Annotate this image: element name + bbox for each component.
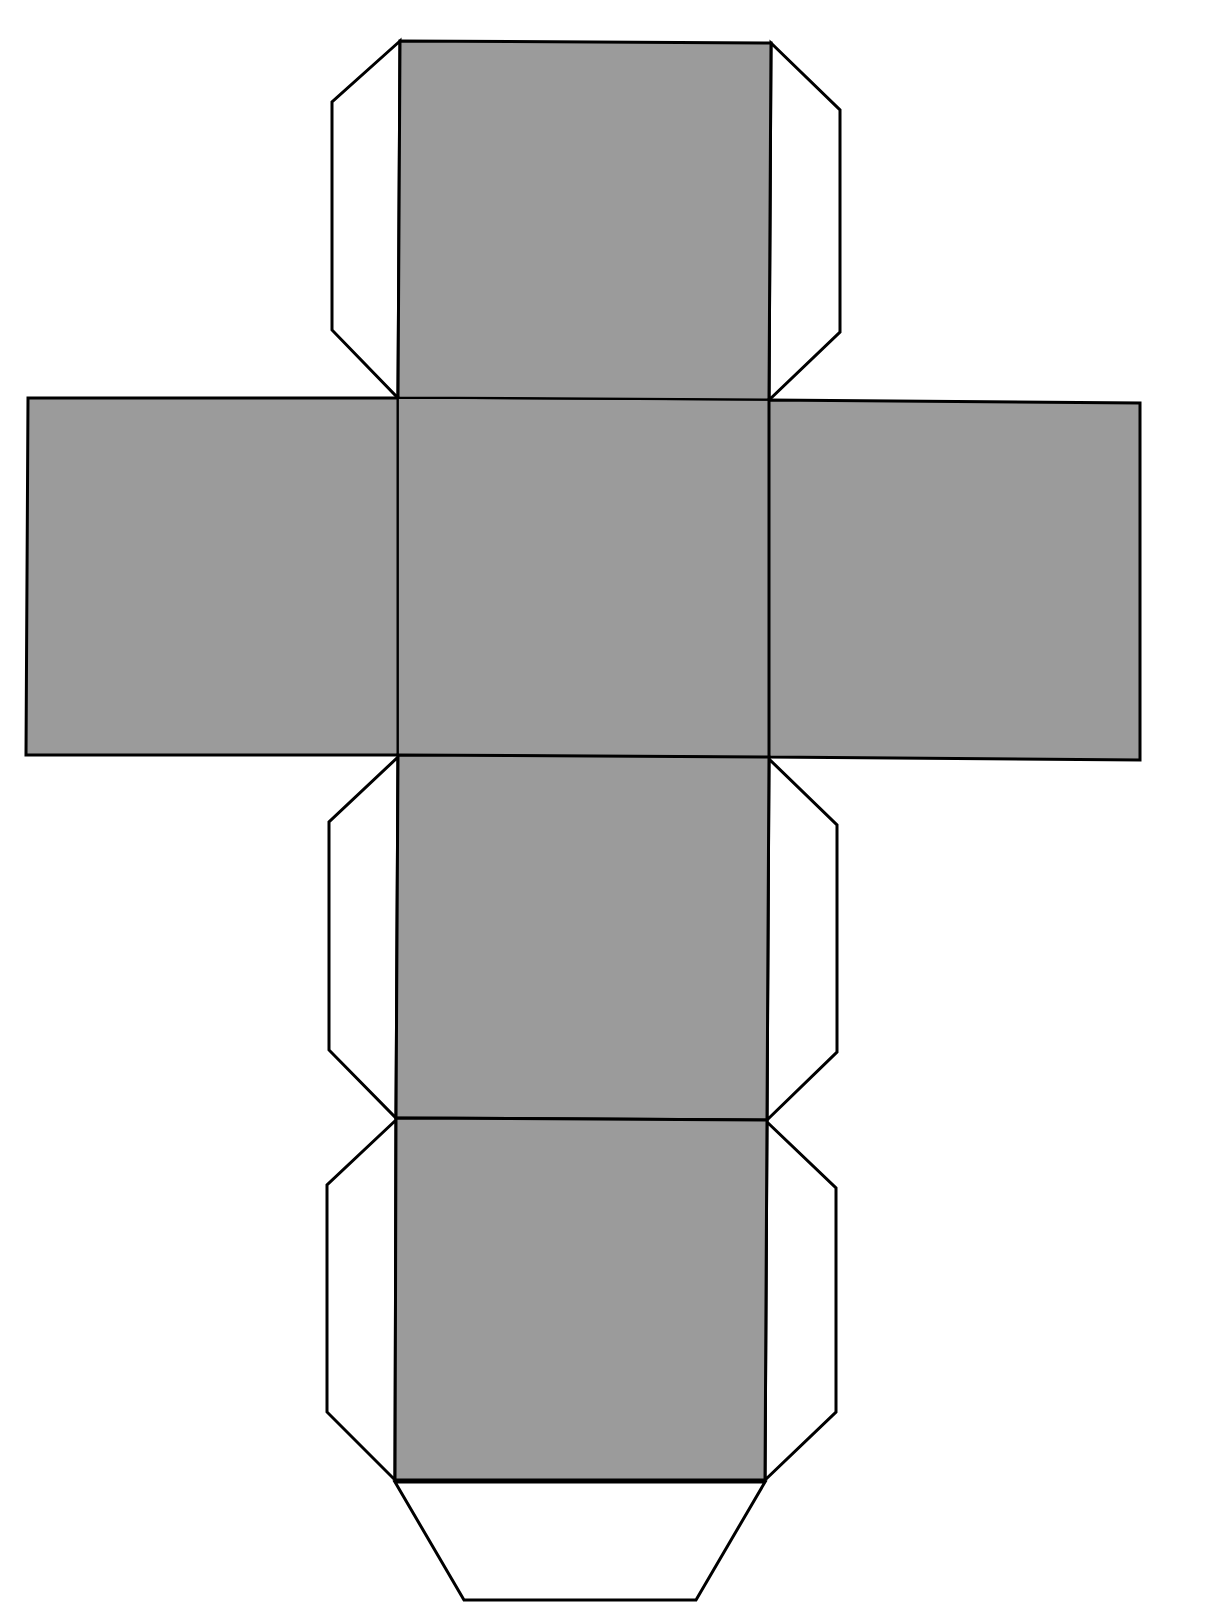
bottom-right-tab <box>765 1122 836 1480</box>
top-face <box>398 41 771 400</box>
right-face <box>769 400 1140 760</box>
bottom-left-tab <box>327 1120 396 1480</box>
cube-net-diagram <box>0 0 1207 1622</box>
cube-faces <box>26 41 1140 1480</box>
top-right-tab <box>769 43 840 400</box>
lower-right-tab <box>767 759 837 1120</box>
center-face <box>398 398 769 757</box>
top-left-tab <box>332 41 400 398</box>
lower-face <box>396 755 769 1120</box>
lower-left-tab <box>329 757 398 1118</box>
bottom-face <box>395 1118 767 1480</box>
left-face <box>26 398 398 755</box>
bottom-tab <box>395 1482 765 1600</box>
